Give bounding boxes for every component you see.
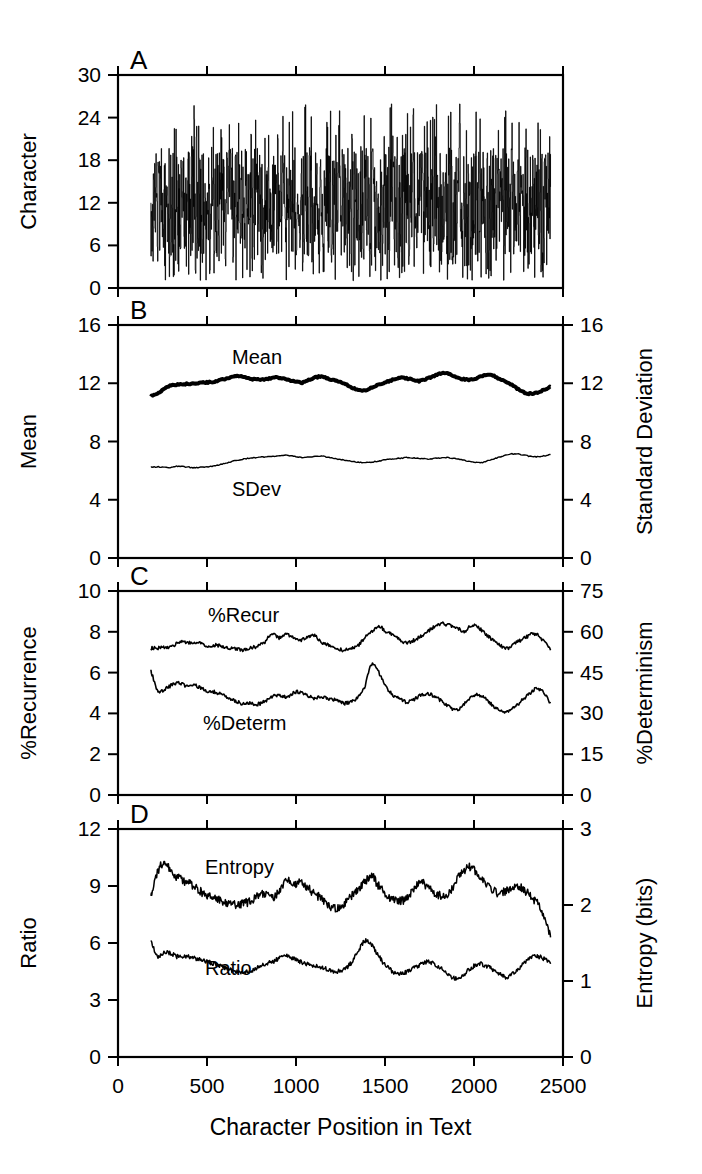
y-tick-label-right: 30 xyxy=(580,701,603,724)
multi-panel-figure: A0612182430CharacterB0481216Mean0481216S… xyxy=(0,0,702,1174)
y-axis-label-left: Character xyxy=(16,133,41,230)
curve-label-entropy: Entropy xyxy=(205,856,274,878)
y-tick-label-right: 16 xyxy=(580,313,603,336)
panel-frame xyxy=(118,325,563,558)
y-tick-label-right: 12 xyxy=(580,371,603,394)
y-tick-label-right: 4 xyxy=(580,488,592,511)
y-axis-label-right: %Determinism xyxy=(632,621,657,764)
y-tick-label-right: 0 xyxy=(580,1045,592,1068)
y-tick-label-left: 6 xyxy=(89,661,101,684)
y-tick-label-left: 0 xyxy=(89,546,101,569)
y-tick-label-right: 45 xyxy=(580,661,603,684)
x-tick-label: 1500 xyxy=(362,1074,409,1097)
y-tick-label-left: 0 xyxy=(89,276,101,299)
y-tick-label-right: 8 xyxy=(580,430,592,453)
panel-c: C0246810%Recurrence01530456075%Determini… xyxy=(16,561,657,806)
y-tick-label-left: 4 xyxy=(89,488,101,511)
panel-label-d: D xyxy=(130,799,149,829)
panel-b-data: MeanSDev xyxy=(151,346,551,500)
series-mean xyxy=(151,373,551,397)
x-tick-label: 1000 xyxy=(273,1074,320,1097)
y-tick-label-left: 8 xyxy=(89,620,101,643)
y-tick-label-left: 0 xyxy=(89,1045,101,1068)
y-tick-label-left: 9 xyxy=(89,874,101,897)
y-tick-label-left: 2 xyxy=(89,742,101,765)
y-tick-label-left: 8 xyxy=(89,430,101,453)
panel-label-a: A xyxy=(130,45,148,75)
panel-frame xyxy=(118,829,563,1057)
y-tick-label-left: 3 xyxy=(89,988,101,1011)
curve-label-ratio: Ratio xyxy=(205,957,252,979)
y-axis-label-right: Standard Deviation xyxy=(632,348,657,535)
panel-d: D036912Ratio0123Entropy (bits) xyxy=(16,799,657,1068)
curve-label-determ: %Determ xyxy=(203,712,286,734)
y-tick-label-right: 0 xyxy=(580,546,592,569)
y-tick-label-left: 6 xyxy=(89,931,101,954)
curve-label-sdev: SDev xyxy=(232,478,281,500)
y-tick-label-right: 15 xyxy=(580,742,603,765)
y-tick-label-left: 12 xyxy=(78,191,101,214)
y-tick-label-left: 18 xyxy=(78,148,101,171)
y-tick-label-right: 60 xyxy=(580,620,603,643)
x-axis-label: Character Position in Text xyxy=(210,1114,472,1140)
y-tick-label-left: 24 xyxy=(78,106,102,129)
y-tick-label-left: 6 xyxy=(89,233,101,256)
y-tick-label-left: 10 xyxy=(78,579,101,602)
y-tick-label-right: 1 xyxy=(580,969,592,992)
x-tick-label: 2000 xyxy=(451,1074,498,1097)
panel-label-b: B xyxy=(130,295,147,325)
y-tick-label-left: 0 xyxy=(89,783,101,806)
y-axis-label-left: %Recurrence xyxy=(16,626,41,759)
series-character xyxy=(151,104,551,281)
curve-label-mean: Mean xyxy=(232,346,282,368)
y-tick-label-left: 30 xyxy=(78,63,101,86)
panel-d-data: EntropyRatio xyxy=(151,856,551,980)
y-tick-label-right: 2 xyxy=(580,893,592,916)
y-tick-label-left: 16 xyxy=(78,313,101,336)
panel-b: B0481216Mean0481216Standard Deviation xyxy=(16,295,657,569)
panel-a-data xyxy=(151,104,551,281)
figure-container: A0612182430CharacterB0481216Mean0481216S… xyxy=(0,0,702,1174)
y-tick-label-right: 75 xyxy=(580,579,603,602)
y-tick-label-right: 3 xyxy=(580,817,592,840)
panel-c-data: %Recur%Determ xyxy=(151,604,551,734)
series-sdev xyxy=(151,454,551,468)
x-tick-label: 500 xyxy=(189,1074,224,1097)
curve-label-recur: %Recur xyxy=(208,604,279,626)
y-tick-label-left: 12 xyxy=(78,817,101,840)
x-tick-label: 0 xyxy=(112,1074,124,1097)
panel-label-c: C xyxy=(130,561,149,591)
y-axis-label-left: Mean xyxy=(16,414,41,469)
y-tick-label-left: 4 xyxy=(89,701,101,724)
series-recurrence xyxy=(151,622,551,652)
y-tick-label-left: 12 xyxy=(78,371,101,394)
y-tick-label-right: 0 xyxy=(580,783,592,806)
y-axis-label-right: Entropy (bits) xyxy=(632,878,657,1009)
x-tick-label: 2500 xyxy=(540,1074,587,1097)
y-axis-label-left: Ratio xyxy=(16,917,41,968)
series-determinism xyxy=(151,663,551,713)
panel-frame xyxy=(118,591,563,795)
